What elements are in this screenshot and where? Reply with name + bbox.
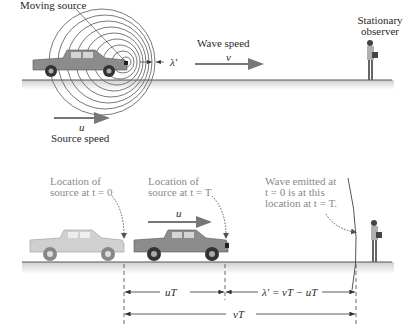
source-t0-label: Location of source at t = 0 <box>50 176 112 198</box>
stationary-observer-icon <box>367 40 378 80</box>
tT-leader <box>212 196 226 236</box>
wave-speed-label: Wave speed <box>197 38 250 49</box>
wave-note-leader <box>326 214 354 232</box>
stationary-observer-label: Stationary observer <box>350 15 410 37</box>
top-ground <box>22 80 394 90</box>
truck-at-t0-icon <box>30 230 124 261</box>
observer-bottom-icon <box>371 220 382 262</box>
wave-note-line3: location at t = T. <box>265 198 337 209</box>
doppler-diagram: Moving source λ′ Wave speed v u Source s… <box>0 0 412 336</box>
moving-truck-icon <box>33 50 128 77</box>
dimension-uT: uT <box>165 287 177 298</box>
diagram-canvas <box>0 0 412 336</box>
truck-at-tT-icon <box>134 230 229 261</box>
dimension-lambda: λ′ = vT − uT <box>262 287 317 298</box>
wave-emitted-note: Wave emitted at t = 0 is at this locatio… <box>265 176 337 209</box>
moving-source-label: Moving source <box>20 0 86 11</box>
observer-label-line2: observer <box>350 26 410 37</box>
source-speed-label: Source speed <box>51 133 109 144</box>
source-velocity-symbol: u <box>176 208 182 219</box>
dimension-vT: vT <box>233 309 244 320</box>
source-t0-line2: source at t = 0 <box>50 187 112 198</box>
bottom-ground <box>22 262 394 274</box>
source-tT-label: Location of source at t = T <box>148 176 211 198</box>
wave-speed-symbol: v <box>226 52 231 63</box>
source-tT-line2: source at t = T <box>148 187 211 198</box>
t0-leader <box>112 196 124 236</box>
wavelength-symbol: λ′ <box>170 57 177 68</box>
